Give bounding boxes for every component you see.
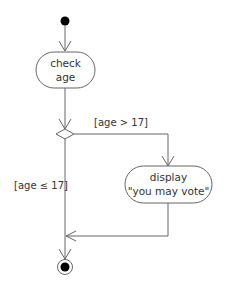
guard-no: [age ≤ 17] bbox=[14, 180, 68, 192]
flow-display-to-merge bbox=[66, 203, 168, 241]
flow-decision-to-end bbox=[59, 139, 71, 259]
check-age-label: check age bbox=[36, 56, 95, 84]
flow-start-to-check bbox=[59, 25, 71, 51]
check-age-line2: age bbox=[36, 70, 95, 84]
flow-decision-to-display bbox=[74, 134, 174, 166]
check-age-line1: check bbox=[36, 56, 95, 70]
display-line1: display bbox=[125, 170, 212, 184]
flow-check-to-decision bbox=[59, 88, 71, 129]
activity-diagram bbox=[0, 0, 227, 281]
guard-yes: [age > 17] bbox=[94, 117, 148, 129]
display-label: display "you may vote" bbox=[125, 170, 212, 198]
final-node-dot bbox=[61, 263, 70, 272]
initial-node bbox=[61, 17, 70, 26]
decision-node bbox=[56, 129, 74, 139]
display-line2: "you may vote" bbox=[125, 184, 212, 198]
